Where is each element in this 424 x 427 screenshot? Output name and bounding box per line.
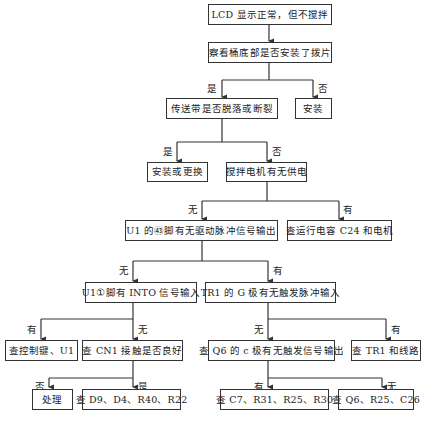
edge-label-no: 否 bbox=[272, 147, 282, 157]
node-install-or-replace: 安装或更换 bbox=[147, 162, 208, 182]
edge-label-yes: 是 bbox=[163, 147, 173, 157]
edge-label-none: 无 bbox=[188, 205, 198, 215]
node-start: LCD 显示正常，但不搅拌 bbox=[208, 4, 332, 25]
node-check-d9: 查 D9、D4、R40、R22 bbox=[82, 389, 181, 410]
node-check-cn1: 查 CN1 接触是否良好 bbox=[82, 340, 183, 361]
node-check-c7: 查 C7、R31、R25、R30 bbox=[220, 389, 329, 410]
edge-label-has: 有 bbox=[27, 325, 37, 335]
edge-label-has: 有 bbox=[391, 325, 401, 335]
node-check-q6: 查 Q6 的 c 极有无触发信号输出 bbox=[208, 340, 335, 361]
edge-label-none: 无 bbox=[119, 266, 129, 276]
node-check-keys: 查控制键、U1 bbox=[5, 340, 78, 361]
node-install: 安装 bbox=[295, 98, 332, 119]
node-belt-check: 传送带是否脱落或断裂 bbox=[166, 98, 278, 119]
edge-label-no: 否 bbox=[318, 84, 328, 94]
node-check-paddle: 察看桶底部是否安装了拨片 bbox=[208, 42, 332, 63]
node-check-tr1: 查 TR1 和线路 bbox=[351, 340, 421, 361]
edge-label-none: 无 bbox=[254, 325, 264, 335]
node-u1-pin43: U1 的㊸脚有无驱动脉冲信号输出 bbox=[125, 220, 278, 241]
edge-label-has: 有 bbox=[273, 266, 283, 276]
node-tr1-gate: TR1 的 G 极有无触发脉冲输入 bbox=[205, 282, 336, 303]
edge-label-has: 有 bbox=[343, 205, 353, 215]
node-check-c24: 查运行电容 C24 和电机 bbox=[287, 220, 392, 241]
edge-label-yes: 是 bbox=[207, 84, 217, 94]
node-motor-power: 搅拌电机有无供电 bbox=[226, 162, 307, 182]
node-handle: 处理 bbox=[32, 389, 73, 410]
connector-lines bbox=[0, 0, 424, 427]
edge-label-none: 无 bbox=[138, 325, 148, 335]
node-u1-pin1: U1①脚有 INTO 信号输入 bbox=[85, 282, 197, 303]
node-check-q6-parts: 查 Q6、R25、C26 bbox=[338, 389, 414, 410]
